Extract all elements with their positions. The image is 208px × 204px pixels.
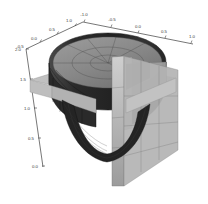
tick-label-z-4: 2.0 [15, 47, 22, 52]
plot-container: -1.0 -0.5 0.0 0.5 1.0 1.0 0.5 0.0 -0.5 2… [0, 0, 208, 204]
tick-label-z-1: 0.5 [28, 136, 35, 141]
vertical-plane-x [124, 56, 178, 186]
tick-label-y-1: 0.0 [31, 36, 38, 41]
tick-label-z-0: 0.0 [32, 164, 39, 169]
tick-label-x-4: 1.0 [189, 34, 196, 39]
tick-label-z-2: 1.0 [24, 106, 31, 111]
vertical-plane-y [112, 56, 124, 186]
tick-label-z-3: 1.5 [20, 77, 27, 82]
surface-plot-3d: -1.0 -0.5 0.0 0.5 1.0 1.0 0.5 0.0 -0.5 2… [0, 0, 208, 204]
tick-label-x-3: 0.5 [161, 29, 168, 34]
tick-label-x-1: -0.5 [108, 17, 116, 22]
tick-label-x-0: -1.0 [80, 12, 88, 17]
tick-label-x-2: 0.0 [135, 24, 142, 29]
tick-label-y-3: 1.0 [66, 18, 73, 23]
tick-label-y-2: 0.5 [49, 27, 56, 32]
